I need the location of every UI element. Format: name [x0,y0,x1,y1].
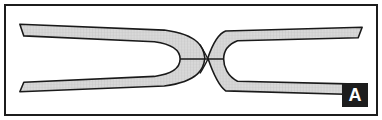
figure-drawing [6,6,376,114]
right-fork-outline [208,27,362,95]
left-fork-outline [20,24,205,92]
figure-frame: A [4,4,378,116]
left-fork-band [20,24,205,92]
panel-label-badge: A [342,83,368,107]
screenshot-root: A [0,0,382,120]
right-fork-band [208,27,362,95]
